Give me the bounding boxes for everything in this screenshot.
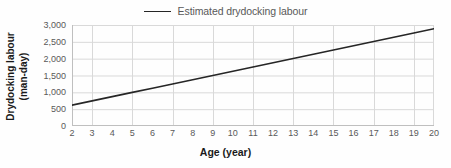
x-axis-tick-label: 9 xyxy=(210,128,215,138)
x-axis-tick-label: 16 xyxy=(349,128,359,138)
y-axis-tick-label: 2,000 xyxy=(43,54,66,64)
y-axis-tick-label: 0 xyxy=(61,121,66,131)
y-axis-tick-label: 3,000 xyxy=(43,20,66,30)
x-axis-tick-label: 15 xyxy=(328,128,338,138)
x-axis-tick-label: 17 xyxy=(369,128,379,138)
y-axis-tick-label: 2,500 xyxy=(43,37,66,47)
x-axis-tick-label: 8 xyxy=(190,128,195,138)
y-axis-title-line2: (man-day) xyxy=(17,52,28,100)
y-axis-tick-labels: 05001,0001,5002,0002,5003,000 xyxy=(33,25,69,126)
y-axis-tick-label: 1,000 xyxy=(43,87,66,97)
legend-item-estimated-drydocking-labour: Estimated drydocking labour xyxy=(144,5,308,17)
legend-line-swatch-icon xyxy=(144,11,171,12)
x-axis-tick-label: 4 xyxy=(110,128,115,138)
x-axis-tick-label: 2 xyxy=(69,128,74,138)
x-axis-tick-label: 18 xyxy=(389,128,399,138)
plot-area xyxy=(72,25,434,126)
x-axis-tick-label: 6 xyxy=(150,128,155,138)
legend-label: Estimated drydocking labour xyxy=(178,5,308,17)
x-axis-tick-label: 20 xyxy=(429,128,439,138)
chart-plot-svg xyxy=(72,25,434,126)
chart-legend: Estimated drydocking labour xyxy=(0,2,451,20)
x-axis-tick-label: 5 xyxy=(130,128,135,138)
x-axis-tick-label: 10 xyxy=(228,128,238,138)
x-axis-tick-labels: 234567891011121314151617181920 xyxy=(72,128,434,141)
x-axis-tick-label: 19 xyxy=(409,128,419,138)
x-axis-tick-label: 13 xyxy=(288,128,298,138)
x-axis-tick-label: 12 xyxy=(268,128,278,138)
x-axis-tick-label: 11 xyxy=(248,128,257,138)
y-axis-tick-label: 1,500 xyxy=(43,71,66,81)
x-axis-tick-label: 14 xyxy=(308,128,318,138)
y-axis-tick-label: 500 xyxy=(51,104,66,114)
x-axis-tick-label: 7 xyxy=(170,128,175,138)
y-axis-title-line1: Drydocking labour xyxy=(5,32,16,120)
x-axis-tick-label: 3 xyxy=(90,128,95,138)
chart-container: Estimated drydocking labour Drydocking l… xyxy=(0,0,451,168)
y-axis-title: Drydocking labour (man-day) xyxy=(2,22,32,130)
x-axis-title: Age (year) xyxy=(0,146,451,158)
